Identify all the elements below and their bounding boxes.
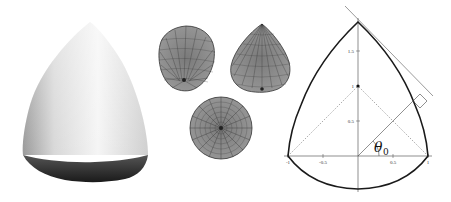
mesh-view-left	[159, 26, 215, 91]
figure-canvas: -1 -0.5 0.5 1 0.5 1 1.5 θ 0	[0, 0, 451, 202]
x-tick-label: 1	[427, 160, 430, 165]
x-tick-label: -0.5	[319, 160, 327, 165]
cross-section-diagram: -1 -0.5 0.5 1 0.5 1 1.5 θ 0	[284, 6, 433, 192]
x-tick-label: 0.5	[390, 160, 397, 165]
y-tick-label: 0.5	[348, 119, 355, 124]
mesh-view-right	[231, 24, 290, 92]
theta-subscript: 0	[383, 147, 389, 157]
x-tick-label: -1	[286, 160, 291, 165]
y-tick-label: 1	[352, 84, 355, 89]
theta-label: θ	[374, 139, 383, 155]
center-point	[357, 85, 360, 88]
normal-line	[358, 94, 420, 156]
mesh-view-bottom	[190, 97, 252, 159]
y-tick-label: 1.5	[348, 49, 355, 54]
shaded-solid	[23, 22, 148, 182]
